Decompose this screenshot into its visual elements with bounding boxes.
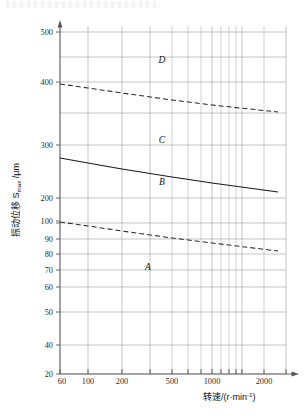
scanned-header-artifact bbox=[6, 1, 156, 8]
cd-boundary-curve bbox=[60, 84, 278, 112]
zone-label-c: C bbox=[159, 135, 166, 145]
chart-canvas: 500 400 300 200 100 90 80 70 60 50 40 20… bbox=[0, 0, 307, 418]
x-tick-label: 60 bbox=[58, 377, 66, 386]
ab-boundary-curve bbox=[60, 222, 278, 251]
horizontal-gridlines bbox=[60, 32, 286, 374]
y-tick-label: 300 bbox=[41, 141, 53, 150]
y-axis-title-subscript: max bbox=[15, 180, 22, 193]
zone-label-b: B bbox=[159, 177, 165, 187]
y-axis-title-main: 振动位移 S bbox=[10, 192, 21, 237]
x-tick-label: 2000 bbox=[256, 377, 273, 386]
y-tick-label: 500 bbox=[41, 28, 53, 37]
svg-text:转速/(r·min-1): 转速/(r·min-1) bbox=[203, 391, 256, 402]
y-tick-label: 70 bbox=[45, 266, 53, 275]
y-tick-label: 100 bbox=[41, 217, 53, 226]
zone-label-d: D bbox=[158, 55, 166, 65]
y-tick-label: 50 bbox=[45, 308, 53, 317]
x-tick-label: 100 bbox=[82, 377, 94, 386]
y-tick-label: 20 bbox=[45, 370, 53, 379]
x-axis-title: 转速/(r·min-1) bbox=[203, 391, 256, 402]
y-tick-label: 90 bbox=[45, 235, 53, 244]
y-tick-label: 200 bbox=[41, 194, 53, 203]
x-axis-title-main: 转速/(r·min bbox=[203, 391, 247, 402]
y-tick-label: 400 bbox=[41, 78, 53, 87]
x-tick-label: 1000 bbox=[204, 377, 221, 386]
x-tick-labels: 60 100 200 500 1000 2000 bbox=[58, 377, 272, 386]
zone-labels: D C B A bbox=[144, 55, 166, 272]
x-axis-title-tail: ) bbox=[253, 392, 256, 402]
vibration-severity-chart: 500 400 300 200 100 90 80 70 60 50 40 20… bbox=[0, 0, 307, 418]
x-tick-marks bbox=[60, 369, 286, 374]
y-axis-arrow bbox=[58, 20, 63, 28]
y-tick-label: 80 bbox=[45, 250, 53, 259]
y-axis-title: 振动位移 Smax /μm bbox=[10, 163, 22, 237]
bc-boundary-curve bbox=[60, 158, 278, 192]
y-tick-label: 40 bbox=[45, 341, 53, 350]
y-tick-label: 60 bbox=[45, 283, 53, 292]
vertical-gridlines bbox=[60, 26, 286, 374]
y-tick-marks bbox=[56, 32, 60, 374]
x-tick-label: 500 bbox=[166, 377, 178, 386]
y-tick-labels: 500 400 300 200 100 90 80 70 60 50 40 20 bbox=[41, 28, 53, 379]
svg-text:振动位移 Smax /μm: 振动位移 Smax /μm bbox=[10, 163, 22, 237]
boundary-curves bbox=[60, 84, 278, 251]
x-axis-arrow bbox=[292, 372, 300, 377]
y-axis-title-unit: /μm bbox=[11, 163, 21, 181]
zone-label-a: A bbox=[144, 262, 151, 272]
x-tick-label: 200 bbox=[116, 377, 128, 386]
